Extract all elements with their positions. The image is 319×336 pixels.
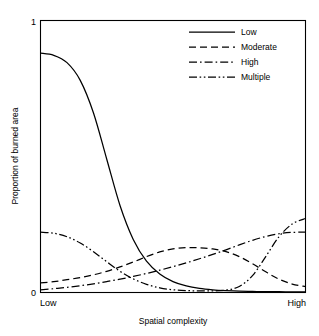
legend-item-moderate: Moderate	[189, 42, 277, 52]
y-tick-label-bottom: 0	[31, 288, 36, 298]
legend-label-moderate: Moderate	[241, 42, 277, 52]
series-group	[41, 53, 306, 292]
figure-container: 1 0 Low High Spatial complexity Proporti…	[0, 0, 319, 336]
chart-legend: Low Moderate High Multiple	[189, 27, 277, 82]
legend-item-multiple: Multiple	[189, 72, 271, 82]
legend-label-multiple: Multiple	[241, 72, 271, 82]
y-tick-label-top: 1	[31, 17, 36, 27]
line-chart: 1 0 Low High Spatial complexity Proporti…	[0, 0, 319, 336]
y-axis-label: Proportion of burned area	[10, 107, 20, 204]
series-line-multiple	[41, 219, 306, 291]
series-line-moderate	[41, 248, 306, 287]
x-tick-label-low: Low	[40, 298, 57, 308]
x-tick-label-high: High	[287, 298, 306, 308]
legend-item-low: Low	[189, 27, 257, 37]
legend-label-low: Low	[241, 27, 257, 37]
legend-item-high: High	[189, 57, 259, 67]
plot-frame	[41, 21, 306, 293]
legend-label-high: High	[241, 57, 259, 67]
x-axis-label: Spatial complexity	[139, 316, 208, 326]
